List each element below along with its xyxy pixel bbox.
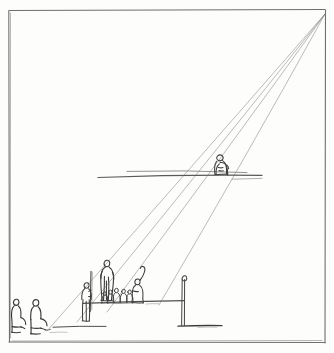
paper-background xyxy=(0,0,334,353)
post-shaft-left xyxy=(182,279,183,325)
sketch-page: Perspective study: figures on a beach wi… xyxy=(0,0,334,353)
perspective-sketch-canvas xyxy=(0,0,334,353)
